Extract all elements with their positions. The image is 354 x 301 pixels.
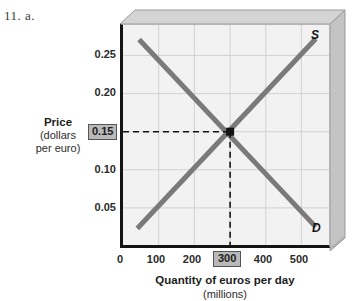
y-axis-title-units2: per euro)	[28, 142, 88, 155]
equilibrium-point-marker	[226, 128, 234, 136]
ytick-label-015-highlighted: 0.15	[88, 124, 117, 140]
plot-graphics	[123, 25, 330, 246]
ytick-label-025: 0.25	[82, 48, 116, 60]
supply-demand-chart: S D 0.25 0.20 0.15 0.10 0.05 0 100 200 3…	[0, 0, 354, 301]
y-axis-title-units1: (dollars	[28, 129, 88, 142]
x-axis-title-main: Quantity of euros per day	[100, 273, 350, 287]
xtick-label-500: 500	[283, 253, 315, 265]
x-axis-title: Quantity of euros per day (millions)	[100, 273, 350, 301]
xtick-label-200: 200	[176, 253, 208, 265]
y-axis-title: Price (dollars per euro)	[28, 116, 88, 155]
ytick-label-005: 0.05	[82, 201, 116, 213]
x-axis-title-units: (millions)	[100, 287, 350, 301]
ytick-label-010: 0.10	[82, 163, 116, 175]
ytick-label-020: 0.20	[82, 86, 116, 98]
xtick-label-0: 0	[111, 253, 129, 265]
y-axis-title-main: Price	[28, 116, 88, 129]
xtick-label-400: 400	[247, 253, 279, 265]
demand-curve-label: D	[312, 221, 321, 235]
xtick-label-100: 100	[140, 253, 172, 265]
xtick-label-300-highlighted: 300	[213, 251, 241, 267]
plot-area: S D	[120, 24, 330, 248]
supply-curve-label: S	[311, 28, 319, 42]
